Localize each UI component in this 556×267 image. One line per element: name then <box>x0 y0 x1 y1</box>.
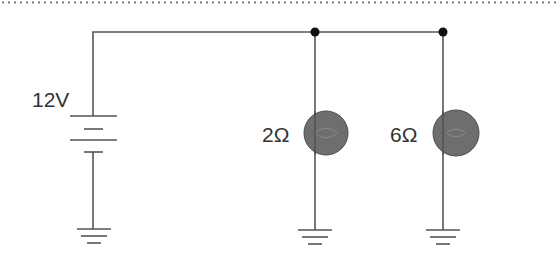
ground-icon <box>298 230 332 244</box>
resistance-label-6ohm: 6Ω <box>390 124 417 145</box>
ground-icon <box>426 230 460 244</box>
battery-symbol <box>70 116 117 229</box>
junction-dot <box>439 28 448 37</box>
battery-voltage-label: 12V <box>32 89 69 110</box>
junction-dot <box>311 28 320 37</box>
top-wire <box>93 32 443 116</box>
resistance-label-2ohm: 2Ω <box>262 124 289 145</box>
bulb-icon-6ohm <box>433 110 479 156</box>
bulb-icon-2ohm <box>304 111 348 155</box>
ground-icon <box>77 229 111 243</box>
